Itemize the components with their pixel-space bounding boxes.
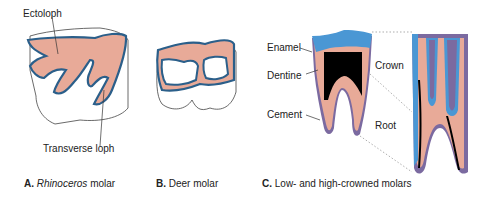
caption-a-letter: A. (24, 178, 34, 189)
low-crowned-molar-illustration (312, 30, 372, 136)
label-enamel: Enamel (267, 43, 301, 53)
rhinoceros-molar-illustration (28, 17, 128, 146)
caption-a-text: molar (87, 178, 115, 189)
high-crowned-molar-illustration (412, 34, 468, 174)
label-cement: Cement (267, 110, 302, 120)
label-root: Root (375, 121, 396, 131)
caption-c-text: Low- and high-crowned molars (272, 178, 412, 189)
molar-diagram (0, 0, 488, 202)
deer-molar-illustration (157, 40, 236, 109)
caption-a-species: Rhinoceros (37, 178, 88, 189)
caption-b-letter: B. (156, 178, 166, 189)
caption-c-letter: C. (262, 178, 272, 189)
caption-a: A. Rhinoceros molar (24, 179, 115, 189)
label-ectoloph: Ectoloph (23, 9, 62, 19)
caption-c: C. Low- and high-crowned molars (262, 179, 412, 189)
label-transverse-loph: Transverse loph (43, 144, 114, 154)
label-crown: Crown (375, 61, 404, 71)
caption-b-text: Deer molar (166, 178, 218, 189)
caption-b: B. Deer molar (156, 179, 218, 189)
label-dentine: Dentine (267, 71, 301, 81)
